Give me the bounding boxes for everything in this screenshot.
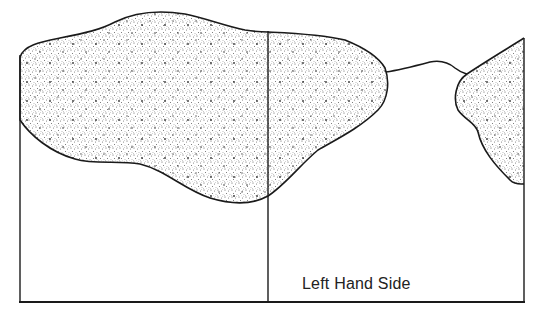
left-hand-side-label: Left Hand Side [302,275,411,293]
right-stippled-blob [455,38,524,184]
left-stippled-blob [20,12,388,203]
connecting-curve [386,61,467,74]
shaded-region-diagram [0,0,542,310]
